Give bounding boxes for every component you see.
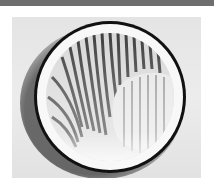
photo bbox=[12, 17, 201, 178]
top-border-strip bbox=[0, 0, 214, 6]
dish-illustration bbox=[12, 17, 201, 178]
